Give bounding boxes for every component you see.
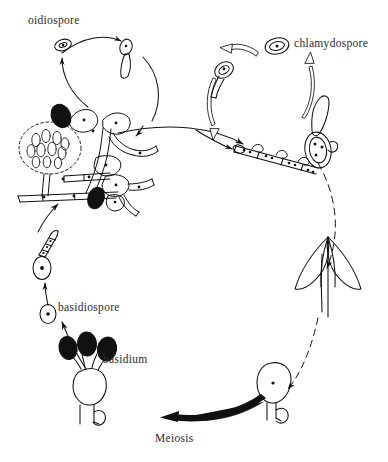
arrow-mycelium-to-oidiospore: [62, 58, 88, 107]
arrow-chlamydo-c: [302, 66, 314, 118]
label-basidiospore: basidiospore: [58, 301, 120, 313]
label-oidiospore: oidiospore: [28, 14, 80, 26]
label-basidium: basidium: [103, 353, 148, 365]
label-chlamydospore: chlamydospore: [294, 37, 368, 49]
diagram-canvas: oidiospore chlamydospore basidiospore ba…: [0, 0, 388, 462]
oidiospore-cells: [53, 37, 134, 78]
arrow-basidiospore-to-germling: [45, 283, 48, 305]
arrow-chlamydo-a-head: [220, 44, 232, 53]
free-basidiospore: [40, 305, 56, 324]
life-cycle-figure: [0, 0, 388, 462]
arrow-meiosis-head: [160, 411, 179, 422]
arrow-chlamydo-b-head: [210, 129, 219, 140]
chlamydospore-cells: [211, 36, 338, 170]
arrow-chlamydo-c-head: [305, 52, 314, 63]
arrow-germling-to-mycelium: [38, 204, 58, 232]
young-basidium: [257, 363, 291, 423]
arc-oidiospore-right: [143, 57, 158, 121]
label-meiosis: Meiosis: [155, 432, 194, 444]
germinating-hypha-chain: [33, 231, 58, 280]
arrow-fruitbody-to-basidium: [288, 318, 318, 389]
sporangium-head: [19, 122, 81, 196]
arrow-hypha-to-fruiting-body: [318, 163, 335, 268]
basidium-cell: [57, 331, 119, 425]
basidiocarp-mushroom: [295, 237, 361, 317]
arrow-oidiospore-into-mycelium: [136, 126, 143, 136]
